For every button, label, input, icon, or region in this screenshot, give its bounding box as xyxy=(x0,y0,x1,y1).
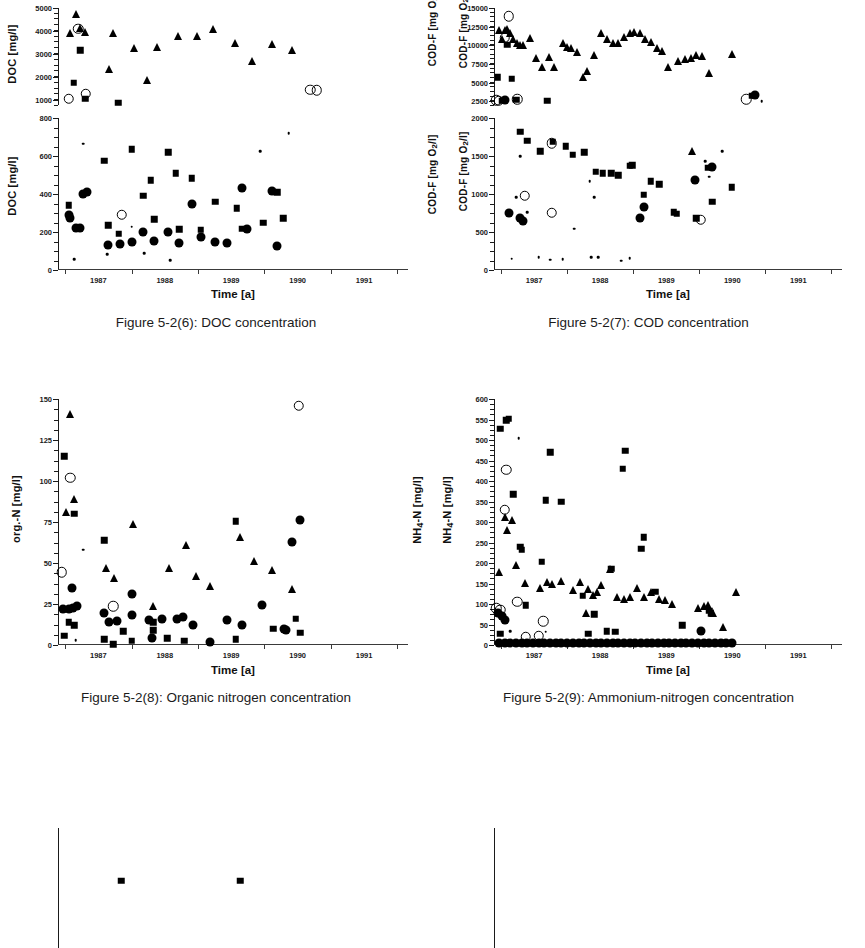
y-axis-minor-tick xyxy=(54,450,58,451)
y-axis-tick-label: 15000 xyxy=(467,4,488,13)
data-point-square-filled xyxy=(599,170,606,177)
x-axis-tick-label: 1988 xyxy=(156,276,173,285)
x-axis-tick-label: 1990 xyxy=(289,276,306,285)
y-axis-major-tick xyxy=(53,8,58,9)
y-axis-label-nh4n-right: NH4-N [mg/l] xyxy=(411,470,425,550)
data-point-small-dot xyxy=(82,142,85,145)
y-axis-minor-tick xyxy=(54,553,58,554)
data-point-circle-filled xyxy=(175,239,184,248)
data-point-circle-filled xyxy=(690,175,699,184)
data-point-square-filled xyxy=(622,447,629,454)
plot-panel-orgn: 19871988198919901991 0255075100125150 xyxy=(58,399,408,645)
data-point-small-dot xyxy=(549,258,552,261)
y-axis-minor-tick xyxy=(490,414,494,415)
data-point-square-filled xyxy=(509,76,516,83)
y-axis-major-tick xyxy=(489,584,494,585)
data-point-small-dot xyxy=(704,160,707,163)
y-axis-minor-tick xyxy=(490,137,494,138)
y-axis-tick-label: 7500 xyxy=(471,59,488,68)
data-point-small-dot xyxy=(169,259,172,262)
data-point-circle-filled xyxy=(164,228,173,237)
data-point-square-filled xyxy=(101,636,108,643)
y-axis-tick-label: 100 xyxy=(475,600,488,609)
data-point-triangle-filled xyxy=(193,32,201,40)
data-point-square-filled xyxy=(524,138,531,145)
data-point-circle-filled xyxy=(206,637,215,646)
data-point-square-filled xyxy=(494,74,501,81)
y-axis-tick-label: 0 xyxy=(484,641,488,650)
y-axis-major-tick xyxy=(53,481,58,482)
data-point-square-filled xyxy=(537,148,544,155)
figure-caption: Figure 5-2(6): DOC concentration xyxy=(0,315,432,330)
data-point-circle-filled xyxy=(67,583,76,592)
y-axis-minor-tick xyxy=(490,471,494,472)
data-point-triangle-filled xyxy=(508,516,516,524)
y-axis-minor-tick xyxy=(490,30,494,31)
y-axis-major-tick xyxy=(53,563,58,564)
data-point-small-dot xyxy=(590,256,593,259)
y-axis-minor-tick xyxy=(490,573,494,574)
data-point-square-filled xyxy=(679,622,686,629)
y-axis-minor-tick xyxy=(54,166,58,167)
data-point-triangle-filled xyxy=(573,48,581,56)
y-axis-major-tick xyxy=(489,270,494,271)
data-point-circle-open xyxy=(741,94,752,105)
y-axis-minor-tick xyxy=(54,430,58,431)
y-axis-minor-tick xyxy=(54,594,58,595)
data-point-triangle-filled xyxy=(182,541,190,549)
data-point-circle-filled xyxy=(196,233,205,242)
y-axis-minor-tick xyxy=(54,36,58,37)
data-point-circle-open xyxy=(311,85,322,96)
data-point-circle-filled xyxy=(211,237,220,246)
data-point-circle-open xyxy=(108,601,119,612)
data-point-square-filled xyxy=(233,205,240,212)
data-point-triangle-filled xyxy=(538,63,546,71)
y-axis-minor-tick xyxy=(490,54,494,55)
x-axis-tick-label: 1987 xyxy=(526,276,543,285)
x-axis-tick xyxy=(765,644,766,649)
y-axis-tick-label: 550 xyxy=(475,415,488,424)
data-point-triangle-filled xyxy=(174,32,182,40)
data-point-square-filled xyxy=(641,192,648,199)
y-axis-minor-tick xyxy=(54,242,58,243)
y-axis-major-tick xyxy=(489,8,494,9)
data-point-triangle-filled xyxy=(732,588,740,596)
data-point-circle-filled xyxy=(104,618,113,627)
data-point-small-dot xyxy=(545,631,548,634)
data-point-circle-filled xyxy=(504,208,513,217)
data-point-circle-filled xyxy=(187,200,196,209)
x-axis-tick xyxy=(264,269,265,274)
data-point-circle-filled xyxy=(519,216,528,225)
plot-panel-partial-right: 1000900 xyxy=(494,828,842,948)
data-point-small-dot xyxy=(628,257,631,260)
data-point-triangle-filled xyxy=(495,568,503,576)
axis-line-left xyxy=(494,118,495,270)
data-point-circle-open xyxy=(504,11,515,22)
data-point-small-dot xyxy=(75,639,78,642)
data-point-circle-filled xyxy=(500,615,509,624)
data-point-small-dot xyxy=(721,150,724,153)
data-point-square-filled xyxy=(615,172,622,179)
y-axis-tick-label: 0 xyxy=(48,641,52,650)
data-point-circle-open xyxy=(512,596,523,607)
y-axis-major-tick xyxy=(489,522,494,523)
y-axis-tick-label: 100 xyxy=(39,477,52,486)
data-point-square-filled xyxy=(544,98,551,105)
y-axis-minor-tick xyxy=(54,147,58,148)
x-axis-tick-label: 1987 xyxy=(90,651,107,660)
y-axis-major-tick xyxy=(489,420,494,421)
data-point-triangle-filled xyxy=(548,580,556,588)
y-axis-major-tick xyxy=(53,77,58,78)
y-axis-minor-tick xyxy=(490,537,494,538)
x-axis-tick-label: 1990 xyxy=(724,651,741,660)
data-point-triangle-filled xyxy=(658,47,666,55)
y-axis-major-tick xyxy=(489,64,494,65)
y-axis-minor-tick xyxy=(54,625,58,626)
data-point-triangle-filled xyxy=(583,67,591,75)
data-point-square-filled xyxy=(641,534,648,541)
data-point-triangle-filled xyxy=(647,588,655,596)
x-axis-tick xyxy=(65,269,66,274)
data-point-square-filled xyxy=(101,537,108,544)
data-point-square-filled xyxy=(274,189,281,196)
